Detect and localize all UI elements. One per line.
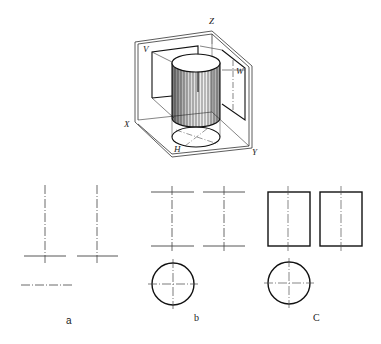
- caption-c: C: [313, 313, 320, 323]
- drawing-canvas: [0, 0, 381, 344]
- view-c: [264, 186, 362, 308]
- h-plane-label: H: [174, 145, 181, 154]
- h-centerline: [176, 130, 218, 144]
- y-axis-label: Y: [252, 148, 257, 157]
- x-axis-label: X: [124, 120, 130, 129]
- caption-b: b: [194, 313, 199, 323]
- view-b: [148, 186, 245, 309]
- caption-a: a: [66, 316, 72, 326]
- v-plane-label: V: [143, 45, 149, 54]
- w-plane-label: W: [236, 67, 244, 76]
- z-axis-label: Z: [209, 17, 214, 26]
- h-centerline: [185, 128, 208, 146]
- projector-line: [152, 98, 174, 118]
- front-rectangle: [268, 192, 310, 246]
- projector-line: [200, 46, 222, 50]
- cylinder: [172, 54, 220, 127]
- view-a: [21, 185, 118, 285]
- isometric-diagram: [135, 31, 252, 157]
